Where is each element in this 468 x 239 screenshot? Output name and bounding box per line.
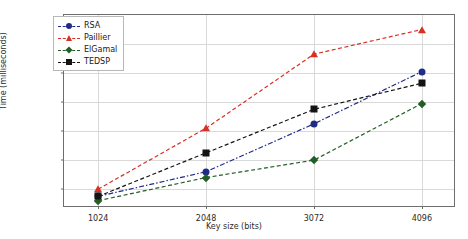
data-point-rsa-3072 — [310, 120, 317, 127]
x-tick-mark — [206, 206, 207, 209]
x-tick-mark — [98, 206, 99, 209]
legend-item-paillier[interactable]: Paillier — [58, 32, 117, 43]
y-tick-mark — [61, 131, 64, 132]
data-point-paillier-3072 — [310, 50, 318, 57]
legend-label: Paillier — [84, 33, 110, 43]
legend-label: TEDSP — [84, 57, 110, 67]
x-axis-label: Key size (bits) — [0, 222, 468, 231]
legend-swatch-paillier-icon — [58, 33, 80, 43]
data-point-tedsp-4096 — [418, 80, 425, 87]
data-point-tedsp-1024 — [95, 193, 102, 200]
chart-figure: Time (milliseconds) 20406080100120 10242… — [0, 0, 468, 239]
legend-marker-square-icon — [66, 59, 72, 65]
legend-marker-triangle-icon — [66, 35, 72, 41]
legend-swatch-elgamal-icon — [58, 45, 80, 55]
data-point-elgamal-4096 — [418, 99, 426, 107]
legend-item-elgamal[interactable]: ElGamal — [58, 44, 117, 55]
legend-item-rsa[interactable]: RSA — [58, 20, 117, 31]
y-tick-mark — [61, 189, 64, 190]
legend-swatch-tedsp-icon — [58, 57, 80, 67]
y-tick-mark — [61, 73, 64, 74]
legend-label: ElGamal — [84, 45, 117, 55]
legend-label: RSA — [84, 21, 100, 31]
x-tick-mark — [314, 206, 315, 209]
data-point-rsa-4096 — [418, 68, 425, 75]
y-axis-label: Time (milliseconds) — [0, 32, 8, 110]
data-point-elgamal-3072 — [310, 156, 318, 164]
data-point-paillier-2048 — [202, 124, 210, 131]
legend-marker-diamond-icon — [65, 46, 72, 53]
data-point-tedsp-3072 — [310, 106, 317, 113]
y-tick-mark — [61, 160, 64, 161]
chart-legend: RSAPaillierElGamalTEDSP — [53, 16, 124, 71]
legend-marker-circle-icon — [66, 23, 72, 29]
x-tick-mark — [422, 206, 423, 209]
legend-swatch-rsa-icon — [58, 21, 80, 31]
data-point-tedsp-2048 — [203, 149, 210, 156]
data-point-paillier-4096 — [418, 26, 426, 33]
data-point-paillier-1024 — [94, 185, 102, 192]
legend-item-tedsp[interactable]: TEDSP — [58, 56, 117, 67]
y-tick-mark — [61, 102, 64, 103]
